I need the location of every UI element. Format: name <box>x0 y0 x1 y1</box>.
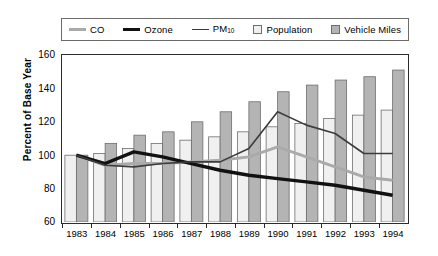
x-tick-label-1985: 1985 <box>124 229 145 239</box>
legend-label-pm10-sub: 10 <box>227 27 234 34</box>
bar-vehicle-miles-1989 <box>249 102 261 222</box>
line-swatch-pm10-icon <box>192 29 209 31</box>
legend-item-pm10: PM10 <box>192 24 235 36</box>
bar-population-1990 <box>266 127 278 222</box>
x-tick-mark-1984 <box>91 224 92 228</box>
x-tick-mark-1985 <box>120 224 121 228</box>
bar-population-1988 <box>209 137 221 222</box>
bar-vehicle-miles-1987 <box>191 122 203 222</box>
legend-label-vehicle-miles: Vehicle Miles <box>344 25 401 35</box>
legend-label-pm10: PM10 <box>213 24 235 36</box>
bar-vehicle-miles-1993 <box>364 77 376 222</box>
x-tick-label-1989: 1989 <box>239 229 260 239</box>
bar-vehicle-miles-1985 <box>134 135 146 222</box>
bar-population-1987 <box>180 140 192 222</box>
bar-population-1993 <box>352 115 364 222</box>
y-axis-title: Percent of Base Year <box>22 55 33 165</box>
bar-vehicle-miles-1990 <box>278 92 290 222</box>
bar-population-1983 <box>65 155 77 222</box>
x-tick-mark-1993 <box>350 224 351 228</box>
bar-population-1994 <box>381 110 393 222</box>
box-swatch-population-icon <box>253 25 262 34</box>
bar-population-1991 <box>295 123 307 222</box>
x-tick-mark-1990 <box>264 224 265 228</box>
bar-population-1985 <box>122 149 134 222</box>
bar-vehicle-miles-1986 <box>163 132 175 222</box>
x-tick-label-1990: 1990 <box>267 229 288 239</box>
y-tick-label-100: 100 <box>31 151 55 161</box>
x-tick-label-1986: 1986 <box>152 229 173 239</box>
legend-label-population: Population <box>266 25 312 35</box>
y-tick-label-80: 80 <box>31 184 55 194</box>
bar-vehicle-miles-1992 <box>335 80 347 222</box>
legend-label-co: CO <box>90 25 104 35</box>
line-swatch-co-icon <box>69 28 86 31</box>
x-tick-mark-1983 <box>62 224 63 228</box>
x-tick-mark-1991 <box>292 224 293 228</box>
bar-vehicle-miles-1994 <box>393 70 405 222</box>
x-tick-label-1988: 1988 <box>210 229 231 239</box>
x-tick-mark-1988 <box>206 224 207 228</box>
line-swatch-ozone-icon <box>123 28 140 31</box>
x-tick-label-1992: 1992 <box>325 229 346 239</box>
x-tick-label-1987: 1987 <box>181 229 202 239</box>
bar-population-1992 <box>324 118 336 222</box>
y-tick-label-160: 160 <box>31 50 55 60</box>
box-swatch-vehicle-miles-icon <box>331 25 340 34</box>
legend-item-vehicle-miles: Vehicle Miles <box>331 25 401 35</box>
x-tick-mark-1989 <box>235 224 236 228</box>
x-tick-mark-1992 <box>321 224 322 228</box>
legend-label-pm10-text: PM <box>213 23 227 34</box>
x-tick-mark-1986 <box>149 224 150 228</box>
bar-vehicle-miles-1983 <box>76 155 88 222</box>
x-tick-label-1984: 1984 <box>95 229 116 239</box>
plot-area <box>61 54 409 224</box>
x-tick-label-1983: 1983 <box>66 229 87 239</box>
y-tick-label-140: 140 <box>31 84 55 94</box>
legend-item-co: CO <box>69 25 104 35</box>
bar-population-1989 <box>237 132 249 222</box>
y-tick-label-120: 120 <box>31 117 55 127</box>
x-tick-mark-1994 <box>379 224 380 228</box>
bar-vehicle-miles-1988 <box>220 112 232 222</box>
plot-canvas <box>62 55 407 222</box>
legend-label-ozone: Ozone <box>144 25 173 35</box>
bar-vehicle-miles-1991 <box>306 85 318 222</box>
x-tick-label-1991: 1991 <box>296 229 317 239</box>
chart-legend: CO Ozone PM10 Population Vehicle Miles <box>61 18 409 41</box>
legend-item-population: Population <box>253 25 312 35</box>
bar-vehicle-miles-1984 <box>105 144 117 222</box>
x-tick-mark-1987 <box>177 224 178 228</box>
chart-figure: CO Ozone PM10 Population Vehicle Miles P… <box>0 0 438 256</box>
x-tick-label-1994: 1994 <box>382 229 403 239</box>
x-tick-label-1993: 1993 <box>354 229 375 239</box>
y-tick-label-60: 60 <box>31 217 55 227</box>
legend-item-ozone: Ozone <box>123 25 173 35</box>
